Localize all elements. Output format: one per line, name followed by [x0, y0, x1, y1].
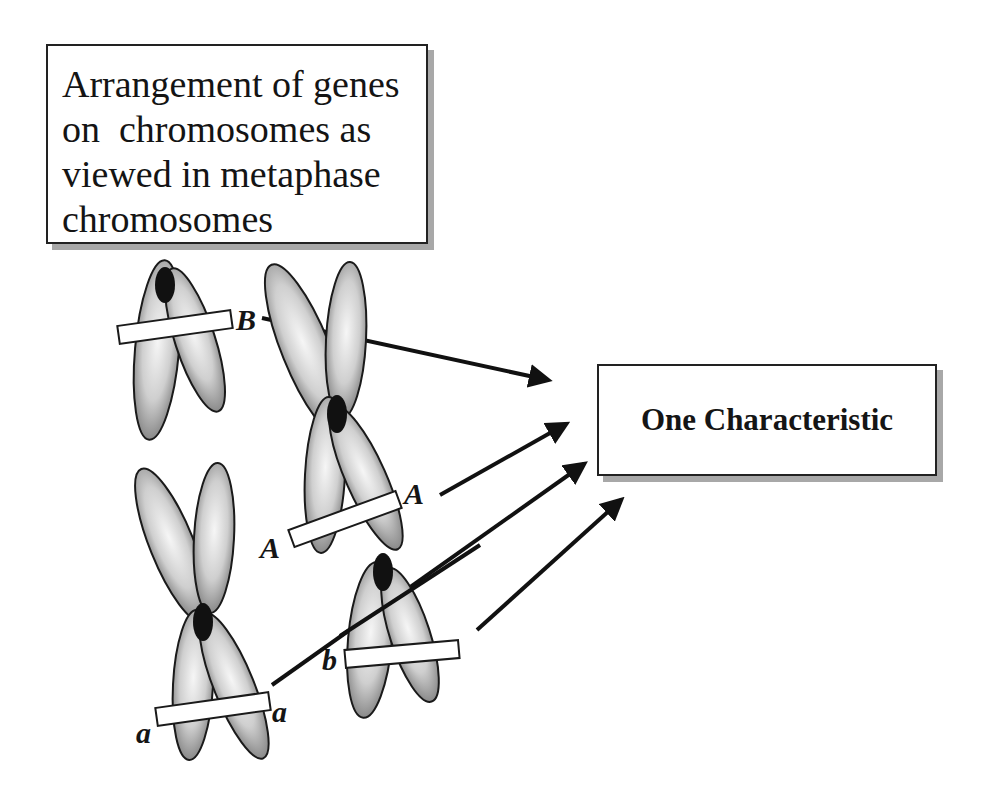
arrow-from-A: [440, 424, 566, 495]
centromere: [373, 553, 393, 591]
chromosome-a: a a: [121, 461, 287, 766]
chromosome-diagram: B A A a a b: [0, 0, 989, 795]
centromere: [155, 267, 175, 303]
centromere: [193, 603, 213, 641]
gene-label-A-left: A: [258, 531, 280, 564]
gene-label-b: b: [322, 643, 337, 676]
chromosome-B: B: [117, 258, 256, 441]
gene-label-A-right: A: [402, 477, 424, 510]
arrow-from-b: [477, 500, 621, 630]
chromatid: [322, 261, 370, 419]
chromatid: [190, 462, 238, 614]
chromosome-b: b: [322, 545, 480, 720]
gene-label-B: B: [235, 303, 256, 336]
gene-label-a-right: a: [272, 695, 287, 728]
centromere: [327, 395, 347, 433]
chromosome-A: A A: [249, 256, 424, 564]
gene-label-a-left: a: [136, 716, 151, 749]
